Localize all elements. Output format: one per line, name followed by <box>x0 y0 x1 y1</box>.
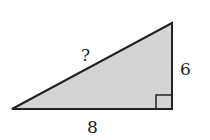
triangle-shape <box>12 23 172 109</box>
horizontal-leg-label: 8 <box>87 117 98 137</box>
vertical-leg-label: 6 <box>180 59 191 79</box>
hypotenuse-label: ? <box>81 45 90 65</box>
triangle-diagram: ? 6 8 <box>0 0 210 140</box>
